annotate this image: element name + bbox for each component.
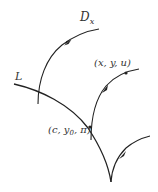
curve-characteristic-lower — [111, 136, 150, 182]
arrow-icon-xyu — [102, 85, 108, 94]
curve-characteristic-xyu — [91, 69, 139, 140]
point-xyu-dot — [124, 71, 127, 74]
curve-Dx — [38, 29, 99, 104]
label-point-xyu: (x, y, u) — [94, 57, 131, 68]
label-L: L — [14, 70, 22, 83]
diagram-canvas: Dx L (x, y, u) (c, y0, π) — [0, 0, 158, 192]
label-Dx: Dx — [79, 10, 95, 26]
label-point-c: (c, y0, π) — [48, 124, 91, 137]
